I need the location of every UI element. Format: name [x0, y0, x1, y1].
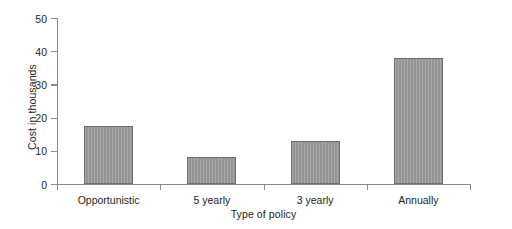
bar-chart: Cost in thousands Type of policy 0102030… — [0, 0, 512, 229]
y-tick: 20 — [51, 118, 57, 119]
y-tick: 40 — [51, 51, 57, 52]
x-tick — [57, 184, 58, 190]
y-tick-label: 40 — [35, 46, 47, 58]
x-tick-label: 3 yearly — [297, 194, 334, 206]
y-tick-label: 10 — [35, 145, 47, 157]
bar — [291, 141, 340, 184]
y-tick: 50 — [51, 18, 57, 19]
bar — [187, 157, 236, 184]
x-tick — [367, 184, 368, 190]
y-tick: 30 — [51, 84, 57, 85]
y-tick: 10 — [51, 151, 57, 152]
x-tick-label: Opportunistic — [78, 194, 140, 206]
x-axis-title: Type of policy — [57, 208, 470, 220]
y-tick-label: 20 — [35, 112, 47, 124]
y-axis-line — [57, 18, 58, 184]
x-tick-label: 5 yearly — [193, 194, 230, 206]
x-tick-label: Annually — [398, 194, 438, 206]
x-tick — [160, 184, 161, 190]
x-tick — [264, 184, 265, 190]
x-tick — [470, 184, 471, 190]
y-tick-label: 0 — [41, 179, 47, 191]
y-tick-label: 50 — [35, 13, 47, 25]
bar — [84, 126, 133, 184]
bar — [394, 58, 443, 184]
y-tick-label: 30 — [35, 79, 47, 91]
plot-area: 01020304050 Opportunistic5 yearly3 yearl… — [57, 18, 470, 184]
